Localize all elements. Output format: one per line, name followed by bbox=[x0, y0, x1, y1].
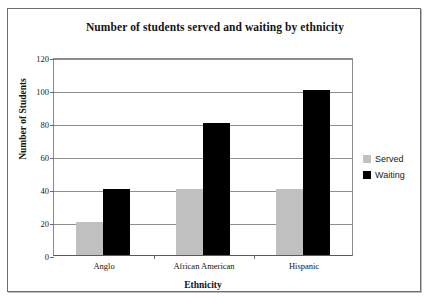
x-tick-label: Anglo bbox=[93, 261, 114, 271]
x-tick-label: African American bbox=[173, 261, 234, 271]
bar-served[interactable] bbox=[76, 222, 103, 255]
legend-item-served[interactable]: Served bbox=[363, 152, 405, 166]
y-tick-mark bbox=[50, 257, 54, 258]
figure-frame: Number of students served and waiting by… bbox=[7, 8, 421, 292]
bar-waiting[interactable] bbox=[203, 123, 230, 255]
x-tick-mark bbox=[154, 255, 155, 259]
bar-group bbox=[54, 59, 154, 255]
y-tick-label: 0 bbox=[45, 252, 49, 262]
bar-waiting[interactable] bbox=[103, 189, 130, 255]
plot-area: 020406080100120 AngloAfrican AmericanHis… bbox=[53, 58, 353, 256]
chart-title: Number of students served and waiting by… bbox=[8, 21, 422, 33]
x-tick-label: Hispanic bbox=[289, 261, 319, 271]
legend-item-waiting[interactable]: Waiting bbox=[363, 168, 405, 182]
y-tick-label: 40 bbox=[41, 186, 50, 196]
y-tick-label: 20 bbox=[41, 219, 50, 229]
bar-served[interactable] bbox=[276, 189, 303, 255]
legend-label: Served bbox=[375, 154, 404, 164]
x-axis-title: Ethnicity bbox=[53, 280, 353, 290]
bar-waiting[interactable] bbox=[303, 90, 330, 255]
legend-swatch-icon bbox=[363, 155, 371, 163]
y-tick-label: 100 bbox=[36, 87, 49, 97]
y-tick-label: 120 bbox=[36, 54, 49, 64]
x-tick-mark bbox=[254, 255, 255, 259]
y-axis-title: Number of Students bbox=[18, 59, 28, 179]
y-tick-label: 80 bbox=[41, 120, 50, 130]
chart-legend: ServedWaiting bbox=[363, 152, 405, 184]
bar-served[interactable] bbox=[176, 189, 203, 255]
bar-group bbox=[154, 59, 254, 255]
bar-group bbox=[254, 59, 354, 255]
y-tick-label: 60 bbox=[41, 153, 50, 163]
legend-label: Waiting bbox=[375, 170, 405, 180]
legend-swatch-icon bbox=[363, 171, 371, 179]
